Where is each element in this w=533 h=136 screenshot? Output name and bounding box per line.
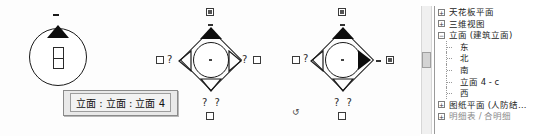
tree-node-elevations[interactable]: − 立面 (建筑立面): [438, 29, 533, 41]
view-direction-triangle-right-icon[interactable]: [228, 50, 242, 72]
elevation-marker-diamond-right[interactable]: ? ? ? ↺: [298, 6, 418, 130]
view-direction-triangle-left-icon[interactable]: [310, 50, 324, 72]
view-direction-triangle-right-icon[interactable]: [358, 50, 371, 70]
panel-scrollbar[interactable]: [421, 6, 432, 134]
tree-node-label: 三维视图: [449, 19, 485, 30]
drawing-canvas[interactable]: ? ? ? ? ↺ ?: [0, 0, 533, 136]
view-direction-triangle-up-icon[interactable]: [47, 25, 69, 38]
tree-node-label: 北: [460, 53, 469, 64]
project-browser-tree[interactable]: + 天花板平面 + 三维视图 − 立面 (建筑立面) 东 北 南: [438, 6, 533, 136]
tree-node-north[interactable]: 北: [438, 52, 533, 64]
tree-node-3d-views[interactable]: + 三维视图: [438, 18, 533, 30]
view-direction-triangle-left-icon[interactable]: [178, 50, 192, 72]
tree-branch-line: [446, 64, 448, 76]
checkbox-bottom[interactable]: [338, 112, 346, 120]
checkbox-top[interactable]: [338, 8, 346, 16]
question-mark-right: ?: [242, 55, 247, 65]
tree-node-ceiling-plan[interactable]: + 天花板平面: [438, 6, 533, 18]
tree-node-label: 南: [460, 65, 469, 76]
marker-center-dot: [341, 59, 344, 61]
checkbox-left[interactable]: [156, 56, 164, 64]
tree-node-east[interactable]: 东: [438, 41, 533, 53]
tree-branch-line: [446, 76, 448, 88]
tree-node-label: 立面 4 - c: [460, 77, 499, 88]
expander-plus-icon[interactable]: +: [438, 113, 445, 120]
view-direction-triangle-down-icon[interactable]: [332, 78, 354, 92]
checkbox-top[interactable]: [206, 8, 214, 16]
tree-node-sheet-plan[interactable]: + 图纸平面 (人防结…: [438, 99, 533, 111]
tree-branch-line: [446, 52, 448, 64]
checkbox-bottom[interactable]: [206, 112, 214, 120]
expander-plus-icon[interactable]: +: [438, 9, 445, 16]
top-dash: [208, 24, 213, 26]
tree-branch-line: [446, 41, 448, 53]
question-mark-bottom: ? ?: [202, 98, 222, 108]
question-mark-bottom: ? ?: [334, 98, 354, 108]
tree-node-elevation-4-c[interactable]: 立面 4 - c: [438, 76, 533, 88]
rotate-handle-icon[interactable]: ↺: [292, 108, 300, 117]
marker-center-badge[interactable]: [53, 47, 64, 69]
tree-node-south[interactable]: 南: [438, 64, 533, 76]
tree-node-west[interactable]: 西: [438, 87, 533, 99]
question-mark-left: ?: [167, 55, 172, 65]
right-dash: [376, 60, 381, 62]
marker-top-dash: [53, 14, 59, 16]
tree-branch-line: [446, 87, 448, 99]
tree-node-label: 西: [460, 88, 469, 99]
tree-node-label: 天花板平面: [449, 7, 494, 18]
checkbox-right[interactable]: [386, 56, 394, 64]
expander-minus-icon[interactable]: −: [438, 32, 445, 39]
project-browser-panel[interactable]: + 天花板平面 + 三维视图 − 立面 (建筑立面) 东 北 南: [420, 0, 533, 136]
tooltip-label: 立面 : 立面 : 立面 4: [70, 93, 171, 112]
panel-divider: [434, 6, 435, 134]
expander-plus-icon[interactable]: +: [438, 101, 445, 108]
elevation-marker-circle[interactable]: [22, 12, 94, 92]
checkbox-left[interactable]: [292, 56, 300, 64]
tree-node-label: 东: [460, 42, 469, 53]
view-direction-triangle-up-icon[interactable]: [332, 27, 354, 39]
elevation-marker-diamond-up[interactable]: ? ? ? ? ↺: [180, 6, 300, 130]
question-mark-left: ?: [303, 54, 308, 64]
expander-plus-icon[interactable]: +: [438, 20, 445, 27]
tree-node-label: 图纸平面 (人防结…: [449, 100, 527, 111]
marker-center-dot: [209, 59, 212, 61]
top-dash: [340, 24, 345, 26]
checkbox-right[interactable]: [253, 56, 261, 64]
view-direction-triangle-down-icon[interactable]: [200, 78, 222, 92]
tree-node-schedules[interactable]: + 明细表 / 合明细: [438, 110, 533, 122]
element-tooltip: 立面 : 立面 : 立面 4: [63, 90, 178, 116]
view-direction-triangle-up-icon[interactable]: [200, 27, 222, 39]
tree-node-label: 立面 (建筑立面): [449, 30, 512, 41]
scrollbar-thumb[interactable]: [422, 52, 431, 68]
tree-node-label: 明细表 / 合明细: [449, 111, 511, 122]
